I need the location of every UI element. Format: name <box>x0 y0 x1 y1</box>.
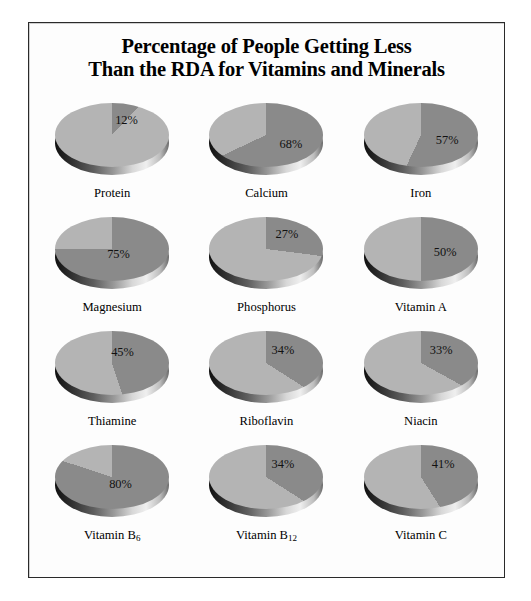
pie-figure: 45% <box>51 325 173 411</box>
title-line-1: Percentage of People Getting Less <box>39 35 494 58</box>
pie-figure: 75% <box>51 211 173 297</box>
pie-category-label: Vitamin A <box>395 300 447 315</box>
pie-category-label: Protein <box>94 186 130 201</box>
pie-chart-thiamine: 45%Thiamine <box>35 325 189 439</box>
pie-top-face <box>55 103 169 167</box>
pie-category-label: Vitamin B12 <box>236 528 297 543</box>
pie-figure: 80% <box>51 439 173 525</box>
pie-top-face <box>209 445 323 509</box>
pie-category-label: Vitamin B6 <box>84 528 141 543</box>
page-title: Percentage of People Getting Less Than t… <box>29 23 504 85</box>
pie-top-face <box>364 217 478 281</box>
pie-chart-protein: 12%Protein <box>35 97 189 211</box>
pie-top-face <box>209 103 323 167</box>
pie-top-face <box>364 445 478 509</box>
pie-category-label: Magnesium <box>82 300 141 315</box>
pie-category-label: Iron <box>410 186 431 201</box>
pie-chart-vitamin-a: 50%Vitamin A <box>344 211 498 325</box>
chart-frame: Percentage of People Getting Less Than t… <box>28 22 505 578</box>
pie-chart-riboflavin: 34%Riboflavin <box>189 325 343 439</box>
pie-top-face <box>55 331 169 395</box>
pie-figure: 57% <box>360 97 482 183</box>
pie-chart-phosphorus: 27%Phosphorus <box>189 211 343 325</box>
pie-chart-magnesium: 75%Magnesium <box>35 211 189 325</box>
pie-figure: 34% <box>205 439 327 525</box>
pie-category-label: Niacin <box>404 414 438 429</box>
pie-category-label: Phosphorus <box>237 300 296 315</box>
pie-top-face <box>55 445 169 509</box>
pie-figure: 50% <box>360 211 482 297</box>
pie-chart-vitamin-c: 41%Vitamin C <box>344 439 498 553</box>
pie-figure: 68% <box>205 97 327 183</box>
pie-figure: 27% <box>205 211 327 297</box>
pie-chart-niacin: 33%Niacin <box>344 325 498 439</box>
pie-chart-vitamin-b12: 34%Vitamin B12 <box>189 439 343 553</box>
pie-top-face <box>364 103 478 167</box>
pie-top-face <box>55 217 169 281</box>
pie-figure: 33% <box>360 325 482 411</box>
pie-figure: 41% <box>360 439 482 525</box>
pie-chart-grid: 12%Protein68%Calcium57%Iron75%Magnesium2… <box>29 97 504 553</box>
pie-chart-vitamin-b6: 80%Vitamin B6 <box>35 439 189 553</box>
pie-chart-calcium: 68%Calcium <box>189 97 343 211</box>
pie-category-label: Vitamin C <box>395 528 447 543</box>
pie-category-label: Riboflavin <box>240 414 294 429</box>
pie-top-face <box>364 331 478 395</box>
pie-category-label: Thiamine <box>88 414 136 429</box>
pie-category-label: Calcium <box>245 186 288 201</box>
pie-chart-iron: 57%Iron <box>344 97 498 211</box>
pie-figure: 12% <box>51 97 173 183</box>
pie-top-face <box>209 331 323 395</box>
pie-top-face <box>209 217 323 281</box>
title-line-2: Than the RDA for Vitamins and Minerals <box>39 58 494 81</box>
pie-figure: 34% <box>205 325 327 411</box>
